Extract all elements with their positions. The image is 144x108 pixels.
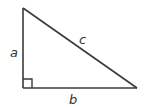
hypotenuse-c-line: [23, 8, 137, 88]
label-c: c: [79, 32, 86, 47]
right-triangle-diagram: a b c: [0, 0, 144, 108]
right-angle-marker-icon: [23, 79, 32, 88]
label-a: a: [10, 45, 18, 60]
label-b: b: [69, 92, 77, 107]
